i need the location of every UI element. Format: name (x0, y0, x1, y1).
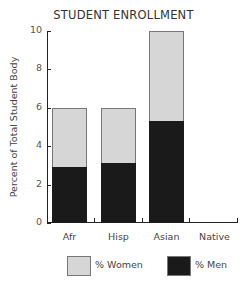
bar-hisp (101, 108, 136, 223)
y-tick (47, 69, 51, 70)
legend-women-label: % Women (95, 259, 143, 270)
y-axis (47, 31, 48, 223)
legend-men-label: % Men (195, 259, 227, 270)
y-tick (47, 31, 51, 32)
y-axis-label: Percent of Total Student Body (8, 57, 19, 198)
bar-afr (52, 108, 87, 223)
x-tick (94, 218, 95, 222)
x-tick (237, 218, 238, 222)
y-tick-label: 2 (28, 178, 42, 189)
x-tick-label: Asian (147, 231, 187, 242)
bar-segment-women (101, 108, 136, 164)
y-tick-label: 10 (28, 24, 42, 35)
y-tick (47, 108, 51, 109)
y-tick (47, 185, 51, 186)
bar-segment-women (149, 31, 184, 121)
y-tick-label: 8 (28, 62, 42, 73)
bar-asian (149, 31, 184, 223)
bar-segment-men (149, 121, 184, 223)
y-tick-label: 0 (28, 216, 42, 227)
y-tick (47, 223, 51, 224)
legend-women-swatch (67, 256, 91, 276)
y-tick-label: 6 (28, 101, 42, 112)
legend-men-swatch (167, 256, 191, 276)
y-tick (47, 146, 51, 147)
bar-segment-men (101, 163, 136, 223)
x-tick (189, 218, 190, 222)
x-tick (142, 218, 143, 222)
x-tick-label: Native (195, 231, 235, 242)
chart-title: STUDENT ENROLLMENT (0, 8, 247, 22)
x-tick-label: Afr (50, 231, 90, 242)
bar-segment-men (52, 167, 87, 223)
x-tick-label: Hisp (99, 231, 139, 242)
bar-segment-women (52, 108, 87, 168)
y-tick-label: 4 (28, 139, 42, 150)
